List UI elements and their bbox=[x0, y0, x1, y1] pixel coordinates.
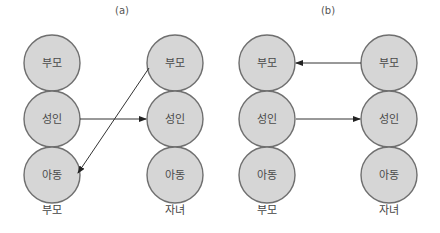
node-b-child-col-2: 아동 bbox=[361, 147, 417, 203]
node-a-child-col-2: 아동 bbox=[147, 147, 203, 203]
column-caption: 부모 bbox=[42, 204, 62, 217]
column-caption: 자녀 bbox=[165, 204, 185, 217]
node-b-parent-col-2: 아동 bbox=[239, 147, 295, 203]
node-label: 성인 bbox=[379, 113, 399, 126]
node-label: 부모 bbox=[165, 57, 185, 70]
node-label: 아동 bbox=[379, 169, 399, 182]
node-b-parent-col-0: 부모 bbox=[239, 35, 295, 91]
node-label: 아동 bbox=[257, 169, 277, 182]
diagram-canvas: 부모성인아동부모성인아동부모성인아동부모성인아동 (a)부모자녀(b)부모자녀 bbox=[0, 0, 440, 233]
panel-label-b: (b) bbox=[321, 5, 335, 16]
node-b-child-col-0: 부모 bbox=[361, 35, 417, 91]
node-a-parent-col-0: 부모 bbox=[24, 35, 80, 91]
arrow-a bbox=[78, 68, 149, 173]
node-label: 아동 bbox=[165, 169, 185, 182]
node-a-parent-col-2: 아동 bbox=[24, 147, 80, 203]
node-label: 성인 bbox=[257, 113, 277, 126]
node-label: 부모 bbox=[42, 57, 62, 70]
node-a-parent-col-1: 성인 bbox=[24, 91, 80, 147]
node-label: 부모 bbox=[257, 57, 277, 70]
node-b-parent-col-1: 성인 bbox=[239, 91, 295, 147]
node-label: 부모 bbox=[379, 57, 399, 70]
column-caption: 자녀 bbox=[379, 204, 399, 217]
node-a-child-col-1: 성인 bbox=[147, 91, 203, 147]
panel-label-a: (a) bbox=[115, 5, 129, 16]
node-label: 성인 bbox=[165, 113, 185, 126]
node-label: 아동 bbox=[42, 169, 62, 182]
node-b-child-col-1: 성인 bbox=[361, 91, 417, 147]
node-a-child-col-0: 부모 bbox=[147, 35, 203, 91]
node-label: 성인 bbox=[42, 113, 62, 126]
column-caption: 부모 bbox=[257, 204, 277, 217]
